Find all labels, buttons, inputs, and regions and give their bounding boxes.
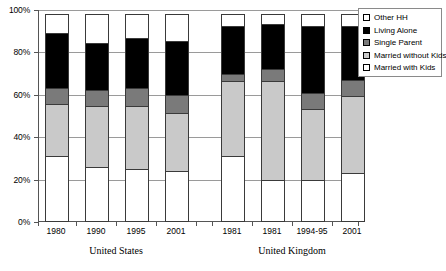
legend-label: Other HH — [374, 13, 408, 22]
legend-item-other-hh: Other HH — [363, 13, 438, 22]
legend-swatch-icon — [363, 52, 370, 59]
bar-segment-other-hh — [45, 14, 69, 34]
x-axis-tick — [212, 222, 213, 226]
x-axis-tick — [196, 222, 197, 226]
legend-item-married-without-kids: Married without Kids — [363, 51, 438, 60]
bar-segment-single-parent — [45, 88, 69, 105]
bar-segment-single-parent — [301, 93, 325, 110]
group-label-united-states: United States — [56, 245, 176, 256]
bar-segment-married-with-kids — [165, 171, 189, 222]
y-axis-tick — [34, 180, 38, 181]
bar-segment-married-with-kids — [221, 156, 245, 222]
bar-segment-living-alone — [85, 43, 109, 92]
bar-segment-single-parent — [165, 95, 189, 114]
y-axis-tick — [34, 137, 38, 138]
bar-segment-married-with-kids — [125, 169, 149, 222]
x-axis-tick — [116, 222, 117, 226]
bar-segment-married-without-kids — [261, 81, 285, 181]
y-axis-tick — [34, 95, 38, 96]
bar-segment-married-with-kids — [85, 167, 109, 222]
bar-segment-other-hh — [125, 14, 149, 39]
x-axis-tick-label: 2001 — [151, 226, 201, 236]
y-axis-tick-label: 100% — [0, 5, 30, 15]
bar-segment-married-with-kids — [261, 180, 285, 222]
y-axis-tick — [34, 52, 38, 53]
chart-legend: Other HHLiving AloneSingle ParentMarried… — [358, 8, 442, 77]
bar-segment-single-parent — [341, 80, 365, 97]
legend-swatch-icon — [363, 14, 370, 21]
bar-segment-married-with-kids — [341, 173, 365, 222]
bar-segment-living-alone — [301, 26, 325, 94]
legend-label: Married without Kids — [374, 51, 446, 60]
bar-segment-married-with-kids — [45, 156, 69, 222]
x-axis-tick — [156, 222, 157, 226]
legend-swatch-icon — [363, 27, 370, 34]
x-axis-tick-label: 2001 — [327, 226, 377, 236]
bar-segment-married-without-kids — [125, 106, 149, 170]
legend-swatch-icon — [363, 39, 370, 46]
legend-label: Living Alone — [374, 26, 417, 35]
x-axis-tick — [252, 222, 253, 226]
bar-segment-married-without-kids — [165, 113, 189, 172]
legend-label: Single Parent — [374, 38, 422, 47]
legend-item-living-alone: Living Alone — [363, 26, 438, 35]
y-axis-tick-label: 60% — [0, 90, 30, 100]
gridline — [39, 10, 358, 11]
bar-segment-married-without-kids — [341, 96, 365, 174]
x-axis-tick — [358, 222, 359, 226]
bar-segment-living-alone — [45, 33, 69, 89]
bar-segment-married-without-kids — [221, 81, 245, 157]
bar-segment-married-without-kids — [301, 109, 325, 181]
bar-segment-other-hh — [165, 14, 189, 42]
bar-segment-living-alone — [261, 24, 285, 71]
x-axis-tick — [38, 222, 39, 226]
bar-1990 — [85, 14, 109, 221]
legend-item-married-with-kids: Married with Kids — [363, 63, 438, 72]
bar-segment-single-parent — [85, 90, 109, 107]
plot-inner — [39, 10, 358, 221]
x-axis-tick — [76, 222, 77, 226]
legend-item-single-parent: Single Parent — [363, 38, 438, 47]
x-axis-tick — [292, 222, 293, 226]
x-axis-tick — [332, 222, 333, 226]
bar-1994-95 — [301, 14, 325, 221]
bar-segment-married-without-kids — [45, 104, 69, 157]
legend-label: Married with Kids — [374, 63, 435, 72]
bar-1980 — [45, 14, 69, 221]
y-axis-tick-label: 0% — [0, 217, 30, 227]
bar-segment-married-with-kids — [301, 180, 325, 222]
stacked-bar-chart: 0%20%40%60%80%100% 198019901995200119811… — [0, 0, 446, 271]
bar-1981 — [221, 14, 245, 221]
bar-1995 — [125, 14, 149, 221]
plot-area — [38, 10, 358, 222]
bar-1981 — [261, 14, 285, 221]
bar-segment-living-alone — [165, 41, 189, 96]
y-axis-tick-label: 20% — [0, 175, 30, 185]
bar-segment-married-without-kids — [85, 106, 109, 167]
bar-segment-living-alone — [221, 26, 245, 75]
bar-2001 — [165, 14, 189, 221]
y-axis-tick-label: 80% — [0, 47, 30, 57]
y-axis-tick-label: 40% — [0, 132, 30, 142]
bar-segment-living-alone — [125, 38, 149, 89]
bar-segment-single-parent — [125, 88, 149, 107]
bar-segment-other-hh — [85, 14, 109, 44]
y-axis-tick — [34, 10, 38, 11]
legend-swatch-icon — [363, 64, 370, 71]
group-label-united-kingdom: United Kingdom — [232, 245, 352, 256]
